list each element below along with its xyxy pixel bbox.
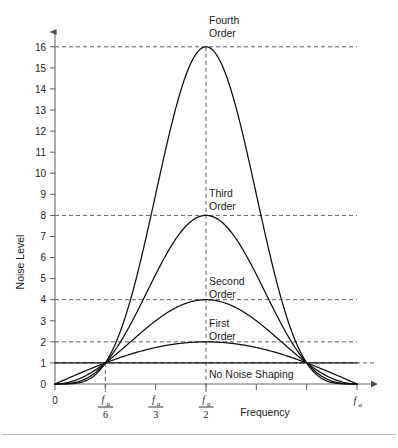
svg-text:a: a <box>157 400 161 408</box>
svg-text:Order: Order <box>209 200 236 212</box>
svg-text:No Noise Shaping: No Noise Shaping <box>209 368 294 380</box>
svg-text:a: a <box>207 400 211 408</box>
x-tick-label-fa-over-6: f a 6 <box>98 394 113 420</box>
svg-text:3: 3 <box>153 409 158 420</box>
svg-text:f: f <box>102 394 106 405</box>
curve-annotations: Fourth Order Third Order Second Order Fi… <box>209 14 294 380</box>
noise-shaping-plot: 16 15 14 13 12 11 10 9 8 7 6 5 4 3 2 1 0… <box>0 0 398 448</box>
x-tick-label-fa-over-3: f a 3 <box>148 394 163 420</box>
label-third-order: Third Order <box>209 187 236 212</box>
y-tick-label-11: 11 <box>36 147 47 158</box>
label-no-noise-shaping: No Noise Shaping <box>209 368 294 380</box>
x-tick-marks <box>55 384 357 390</box>
y-tick-label-9: 9 <box>40 189 46 200</box>
svg-text:Order: Order <box>209 27 236 39</box>
svg-text:2: 2 <box>204 409 209 420</box>
y-tick-label-4: 4 <box>40 294 46 305</box>
x-axis-title: Frequency <box>240 406 290 418</box>
y-tick-label-6: 6 <box>40 252 46 263</box>
svg-text:a: a <box>359 401 363 409</box>
label-fourth-order: Fourth Order <box>209 14 240 39</box>
svg-text:f: f <box>152 394 156 405</box>
svg-text:First: First <box>209 317 229 329</box>
y-tick-label-3: 3 <box>40 316 46 327</box>
x-tick-label-fa-over-2: f a 2 <box>199 394 214 420</box>
y-tick-label-7: 7 <box>40 231 46 242</box>
svg-text:6: 6 <box>103 409 108 420</box>
svg-text:f: f <box>202 394 206 405</box>
y-axis-title: Noise Level <box>14 235 26 290</box>
svg-text:f: f <box>354 395 358 406</box>
svg-text:Third: Third <box>209 187 233 199</box>
y-tick-label-10: 10 <box>35 168 47 179</box>
svg-text:Order: Order <box>209 288 236 300</box>
svg-text:a: a <box>107 400 111 408</box>
y-tick-label-1: 1 <box>40 358 46 369</box>
x-tick-label-origin: 0 <box>52 395 58 406</box>
y-tick-label-5: 5 <box>40 273 46 284</box>
x-tick-labels: 0 f a 6 f a 3 f a 2 f a <box>52 394 362 420</box>
y-tick-label-8: 8 <box>40 210 46 221</box>
y-tick-label-15: 15 <box>35 63 47 74</box>
y-tick-label-2: 2 <box>40 337 46 348</box>
x-tick-label-fa: f a <box>354 395 363 409</box>
chart-figure: 16 15 14 13 12 11 10 9 8 7 6 5 4 3 2 1 0… <box>0 0 398 448</box>
svg-text:Fourth: Fourth <box>209 14 240 26</box>
label-first-order: First Order <box>209 317 236 342</box>
y-tick-label-13: 13 <box>35 105 47 116</box>
y-tick-marks <box>50 47 55 363</box>
y-tick-label-16: 16 <box>35 42 47 53</box>
svg-text:Order: Order <box>209 330 236 342</box>
y-tick-label-14: 14 <box>35 84 47 95</box>
label-second-order: Second Order <box>209 275 245 300</box>
y-tick-labels: 16 15 14 13 12 11 10 9 8 7 6 5 4 3 2 1 0 <box>35 42 47 390</box>
y-tick-label-0: 0 <box>40 379 46 390</box>
svg-text:Second: Second <box>209 275 245 287</box>
y-tick-label-12: 12 <box>35 126 47 137</box>
dashed-vertical-gridlines <box>105 47 206 392</box>
